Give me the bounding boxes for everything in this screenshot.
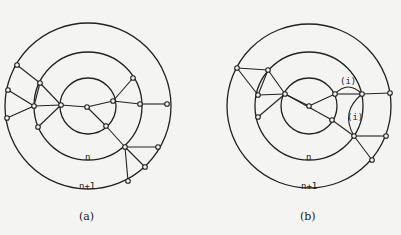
- ring-label-n-a: n: [85, 152, 90, 162]
- loop-label-top: (i): [340, 76, 356, 86]
- loop-label-side: (i): [347, 112, 363, 122]
- ring-label-n-b: n: [306, 152, 311, 162]
- ring-label-n-plus-1-b: n+1: [301, 181, 317, 191]
- loop-edge-top: [335, 87, 362, 94]
- panel-a: n n+1 (a): [5, 23, 171, 223]
- edges-a: [7, 65, 167, 181]
- edges-b: [237, 68, 390, 160]
- figure-canvas: n n+1 (a): [0, 0, 401, 235]
- caption-a: (a): [79, 210, 94, 223]
- ring-label-n-plus-1-a: n+1: [79, 181, 95, 191]
- panel-b: (i) (i) n n+1 (b): [227, 24, 392, 223]
- nodes-b: [235, 66, 393, 163]
- caption-b: (b): [300, 210, 316, 223]
